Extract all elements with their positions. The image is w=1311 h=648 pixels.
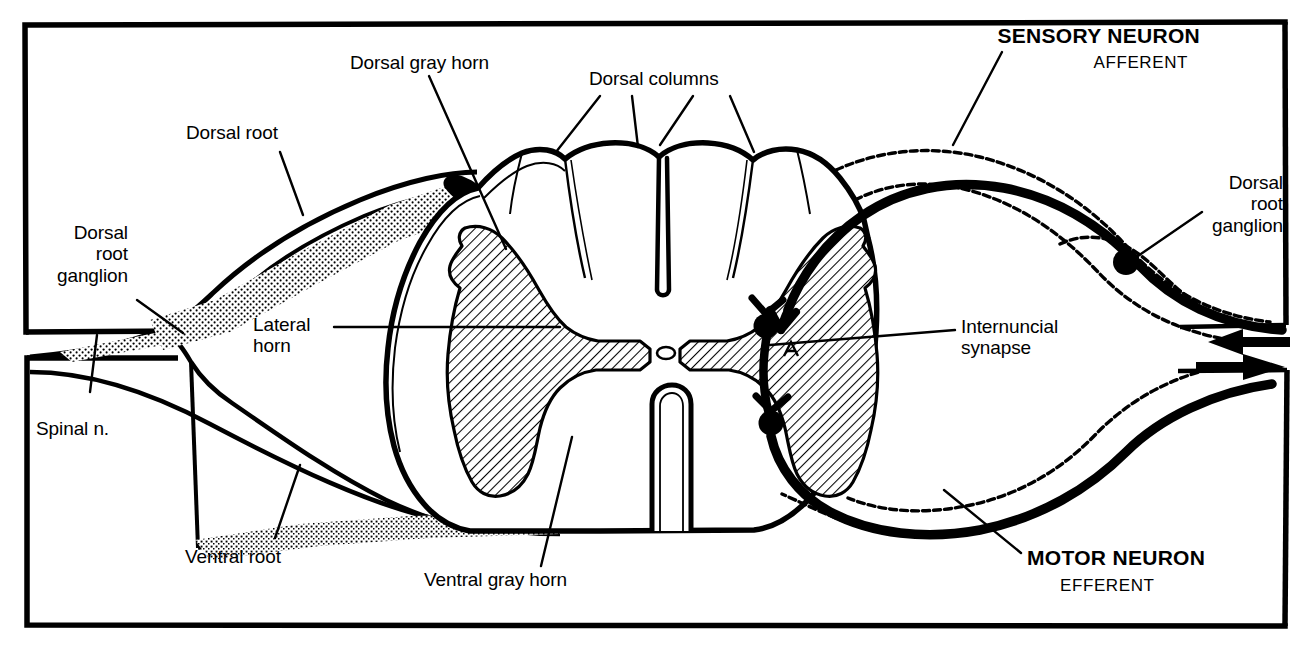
- label-dorsal-columns: Dorsal columns: [589, 68, 719, 89]
- label-dorsal-root-ganglion-left: Dorsal root ganglion: [10, 222, 128, 286]
- label-sensory-neuron: SENSORY NEURON: [930, 24, 1200, 48]
- label-spinal-nerve: Spinal n.: [36, 418, 109, 439]
- figure-canvas: Dorsal root ganglion Dorsal root Dorsal …: [0, 0, 1311, 648]
- label-ventral-root: Ventral root: [185, 546, 281, 567]
- label-lateral-horn: Lateral horn: [253, 314, 310, 357]
- label-dorsal-root-ganglion-right: Dorsal root ganglion: [1150, 172, 1283, 236]
- label-internuncial-synapse: Internuncial synapse: [961, 316, 1058, 359]
- label-dorsal-root: Dorsal root: [186, 122, 278, 143]
- label-dorsal-gray-horn: Dorsal gray horn: [350, 52, 489, 73]
- label-ventral-gray-horn: Ventral gray horn: [424, 569, 567, 590]
- central-canal: [657, 347, 675, 359]
- label-motor-neuron: MOTOR NEURON: [1027, 546, 1205, 570]
- label-afferent: AFFERENT: [930, 53, 1188, 72]
- dorsal-root-ganglion-cell-body: [1113, 249, 1139, 275]
- label-efferent: EFFERENT: [1060, 576, 1155, 595]
- efferent-arrow: [1196, 354, 1285, 380]
- ventral-median-fissure: [652, 385, 691, 531]
